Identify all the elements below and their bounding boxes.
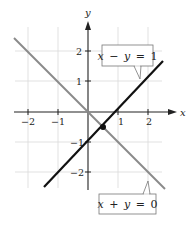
callout-x-minus-y-equals-1: x − y = 1 — [98, 45, 158, 79]
y-axis-arrow-icon — [85, 21, 91, 30]
intersection-point — [100, 124, 106, 130]
callout-x-plus-y-equals-0: x + y = 0 — [98, 181, 158, 214]
coordinate-graph: x −2 −1 1 2 y 2 1 −1 −2 — [0, 0, 192, 225]
x-tick-label: −2 — [21, 116, 35, 127]
y-tick-label: 1 — [76, 76, 82, 87]
x-tick-label: 1 — [118, 116, 124, 127]
x-axis-label: x — [180, 107, 186, 118]
y-tick-label: −2 — [70, 167, 84, 178]
x-tick-label: 2 — [146, 116, 152, 127]
y-tick-label: 2 — [76, 46, 82, 57]
x-axis-arrow-icon — [168, 109, 177, 115]
y-axis-label: y — [84, 7, 91, 18]
x-tick-label: −1 — [51, 116, 65, 127]
